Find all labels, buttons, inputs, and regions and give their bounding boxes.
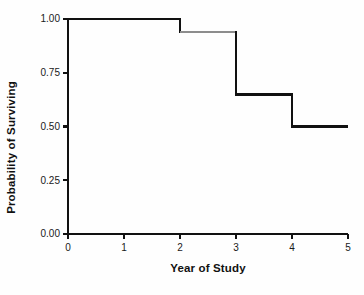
axis-lines [63, 19, 348, 239]
plot-area [0, 0, 364, 295]
survival-chart-figure: Probability of Surviving Year of Study 1… [0, 0, 364, 295]
survival-step-curve [68, 18, 348, 128]
